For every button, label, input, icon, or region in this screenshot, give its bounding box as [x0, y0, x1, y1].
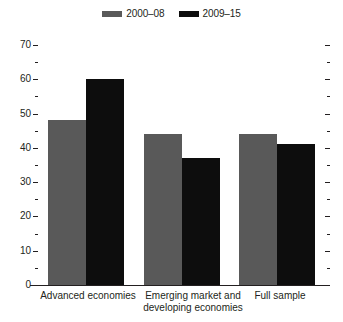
chart-legend: 2000–08 2009–15 — [0, 6, 343, 22]
y-axis-minor-tick — [35, 96, 38, 97]
y-axis-minor-tick-right — [327, 165, 330, 166]
y-axis-minor-tick — [35, 199, 38, 200]
y-axis-minor-tick-right — [327, 199, 330, 200]
y-axis-tick-label: 60 — [20, 74, 31, 84]
bar-advanced-economies-2000-08 — [48, 120, 86, 285]
y-axis-minor-tick — [35, 234, 38, 235]
y-axis-major-tick — [33, 45, 38, 46]
y-axis-major-tick-right — [325, 216, 330, 217]
bar-full-sample-2009-15 — [277, 144, 315, 285]
plot-area: 010203040506070 — [38, 45, 325, 285]
bar-advanced-economies-2009-15 — [86, 79, 124, 285]
category-label-full-sample: Full sample — [225, 290, 335, 302]
y-axis-minor-tick-right — [327, 96, 330, 97]
y-axis-major-tick — [33, 79, 38, 80]
y-axis-major-tick — [33, 216, 38, 217]
y-axis-major-tick — [33, 251, 38, 252]
y-axis-major-tick — [33, 182, 38, 183]
y-axis-tick-label: 20 — [20, 211, 31, 221]
y-axis-tick-label: 70 — [20, 40, 31, 50]
y-axis-minor-tick — [35, 268, 38, 269]
y-axis-tick-label: 40 — [20, 143, 31, 153]
y-axis-minor-tick-right — [327, 62, 330, 63]
bar-emerging-market-and-developing-economies-2009-15 — [182, 158, 220, 285]
legend-entry-2000-08: 2000–08 — [102, 9, 164, 19]
y-axis-minor-tick-right — [327, 234, 330, 235]
y-axis-minor-tick-right — [327, 268, 330, 269]
bar-full-sample-2000-08 — [239, 134, 277, 285]
y-axis-minor-tick-right — [327, 131, 330, 132]
y-axis-minor-tick — [35, 165, 38, 166]
y-axis-minor-tick — [35, 62, 38, 63]
y-axis-major-tick-right — [325, 45, 330, 46]
legend-label-2000-08: 2000–08 — [126, 9, 164, 19]
y-axis-major-tick-right — [325, 182, 330, 183]
x-axis-baseline — [30, 285, 330, 286]
legend-label-2009-15: 2009–15 — [203, 9, 241, 19]
y-axis-major-tick-right — [325, 251, 330, 252]
y-axis-minor-tick — [35, 131, 38, 132]
y-axis-tick-label: 30 — [20, 177, 31, 187]
y-axis-major-tick-right — [325, 114, 330, 115]
bar-chart-figure: 2000–08 2009–15 010203040506070 Advanced… — [0, 0, 343, 322]
y-axis-tick-label: 50 — [20, 109, 31, 119]
legend-entry-2009-15: 2009–15 — [179, 9, 241, 19]
y-axis-major-tick-right — [325, 79, 330, 80]
legend-swatch-2000-08 — [102, 11, 122, 17]
y-axis-tick-label: 10 — [20, 246, 31, 256]
bar-emerging-market-and-developing-economies-2000-08 — [144, 134, 182, 285]
legend-swatch-2009-15 — [179, 11, 199, 17]
y-axis-major-tick-right — [325, 148, 330, 149]
y-axis-major-tick — [33, 114, 38, 115]
y-axis-major-tick — [33, 148, 38, 149]
